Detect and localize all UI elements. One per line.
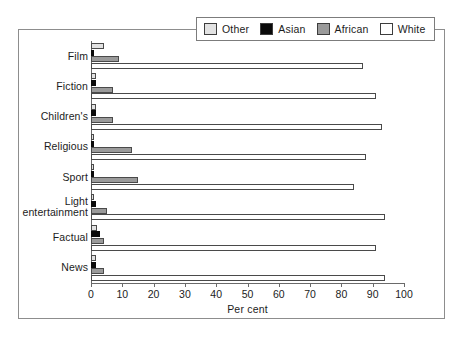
bar-asian (91, 110, 96, 116)
bar-african (91, 147, 132, 153)
x-tick-mark (185, 283, 186, 287)
bar-african (91, 117, 113, 123)
x-tick-label: 50 (242, 288, 254, 300)
bar-other (91, 43, 104, 49)
bar-other (91, 225, 97, 231)
bar-other (91, 255, 96, 261)
y-axis-label: Religious (2, 141, 88, 152)
x-tick-label: 30 (179, 288, 191, 300)
legend-label-other: Other (222, 23, 249, 35)
legend-item-asian: Asian (260, 23, 305, 35)
legend-label-asian: Asian (278, 23, 305, 35)
bar-white (91, 124, 382, 130)
plot-area (91, 41, 404, 283)
bar-group (91, 43, 404, 69)
bar-other (91, 104, 96, 110)
bar-white (91, 63, 363, 69)
bar-other (91, 134, 94, 140)
chart-legend: Other Asian African White (196, 17, 435, 41)
bar-asian (91, 231, 100, 237)
x-tick-label: 40 (210, 288, 222, 300)
bar-white (91, 154, 366, 160)
bar-asian (91, 171, 94, 177)
bar-white (91, 245, 376, 251)
x-tick-mark (279, 283, 280, 287)
legend-label-african: African (335, 23, 369, 35)
x-tick-label: 0 (88, 288, 94, 300)
x-tick-label: 70 (304, 288, 316, 300)
bar-group (91, 164, 404, 190)
x-tick-mark (248, 283, 249, 287)
bar-group (91, 73, 404, 99)
x-tick-mark (341, 283, 342, 287)
x-tick-label: 20 (148, 288, 160, 300)
x-tick-mark (404, 283, 405, 287)
y-axis-label: Fiction (2, 81, 88, 92)
x-tick-mark (91, 283, 92, 287)
x-tick-mark (216, 283, 217, 287)
bar-asian (91, 50, 94, 56)
bar-white (91, 214, 385, 220)
bar-african (91, 177, 138, 183)
x-tick-label: 10 (116, 288, 128, 300)
legend-swatch-other (204, 23, 217, 35)
bar-group (91, 194, 404, 220)
y-axis-label: Light entertainment (2, 196, 88, 218)
x-tick-label: 90 (367, 288, 379, 300)
y-axis-label: Factual (2, 232, 88, 243)
bar-asian (91, 262, 96, 268)
bar-white (91, 184, 354, 190)
bar-asian (91, 80, 96, 86)
x-tick-label: 100 (395, 288, 413, 300)
x-tick-mark (122, 283, 123, 287)
bar-white (91, 275, 385, 281)
bar-white (91, 93, 376, 99)
x-tick-mark (310, 283, 311, 287)
x-tick-label: 80 (336, 288, 348, 300)
y-axis-label: Children's (2, 111, 88, 122)
y-axis-label: News (2, 262, 88, 273)
x-tick-mark (373, 283, 374, 287)
bar-group (91, 134, 404, 160)
bar-other (91, 194, 94, 200)
bar-african (91, 238, 104, 244)
legend-label-white: White (398, 23, 426, 35)
legend-item-other: Other (204, 23, 249, 35)
y-axis-category-labels: FilmFictionChildren'sReligiousSportLight… (0, 41, 88, 283)
bar-group (91, 255, 404, 281)
y-axis-label: Film (2, 51, 88, 62)
x-tick-label: 60 (273, 288, 285, 300)
legend-item-african: African (317, 23, 369, 35)
bar-african (91, 56, 119, 62)
bar-asian (91, 201, 96, 207)
x-axis-title: Per cent (91, 303, 404, 315)
legend-swatch-african (317, 23, 330, 35)
bar-other (91, 164, 94, 170)
legend-swatch-asian (260, 23, 273, 35)
y-axis-label: Sport (2, 172, 88, 183)
bar-group (91, 225, 404, 251)
legend-swatch-white (380, 23, 393, 35)
bar-african (91, 208, 107, 214)
x-axis-ticks: 0102030405060708090100 (91, 283, 411, 305)
bar-other (91, 73, 96, 79)
legend-item-white: White (380, 23, 426, 35)
bar-african (91, 87, 113, 93)
bar-african (91, 268, 104, 274)
x-tick-mark (154, 283, 155, 287)
bar-asian (91, 141, 94, 147)
bar-group (91, 104, 404, 130)
